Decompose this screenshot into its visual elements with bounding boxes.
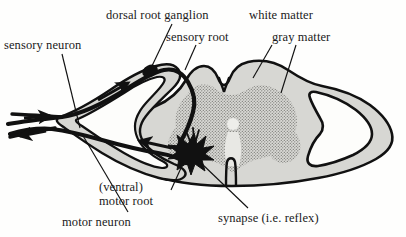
reflex-arc-figure: sensory neuron dorsal root ganglion sens… <box>0 0 406 237</box>
arrow-sensory-peripheral <box>24 116 50 118</box>
label-synapse: synapse (i.e. reflex) <box>218 211 319 226</box>
label-ventral-motor-root-line1: (ventral) <box>99 180 153 194</box>
leader-sensory-root <box>185 45 196 70</box>
label-sensory-root: sensory root <box>166 30 229 45</box>
label-gray-matter: gray matter <box>272 30 330 45</box>
label-motor-neuron: motor neuron <box>62 215 131 230</box>
label-sensory-neuron: sensory neuron <box>4 38 81 53</box>
label-dorsal-root-ganglion: dorsal root ganglion <box>106 8 209 23</box>
label-ventral-motor-root-line2: motor root <box>99 194 153 208</box>
central-canal <box>227 118 239 130</box>
label-ventral-motor-root: (ventral) motor root <box>99 180 153 209</box>
label-white-matter: white matter <box>249 8 313 23</box>
